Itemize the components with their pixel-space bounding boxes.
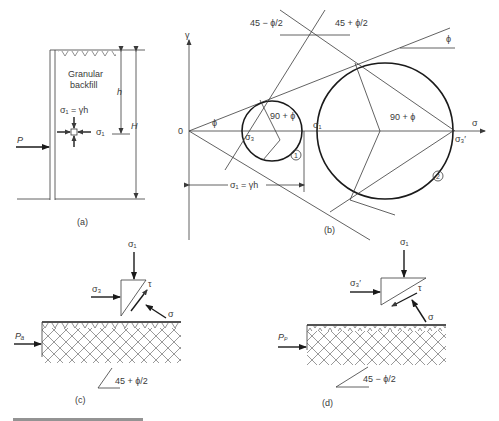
panel-a: Granular backfill σ₁ = γh σ₁ h H P (a): [16, 50, 145, 227]
panel-a-label: (a): [77, 217, 88, 227]
sigma-arrow: [412, 300, 426, 322]
panel-b-label: (b): [324, 225, 335, 235]
stress-wedge: [121, 280, 146, 316]
tau-arrow: [392, 293, 417, 306]
angle-90-large: 90 + ϕ: [390, 112, 415, 122]
sigma1-label: σ₁: [313, 120, 322, 130]
sigma-label: σ: [168, 309, 174, 319]
radius-line-2b: [350, 131, 380, 200]
panel-d-label: (d): [322, 398, 333, 408]
material-label: Granular: [68, 69, 103, 79]
circle-2-label: 2: [436, 173, 440, 180]
sigma1-label: σ₁: [400, 237, 409, 247]
radius-line-2: [355, 63, 380, 131]
soil-block: [307, 331, 446, 365]
failure-plane-line-3: [330, 131, 453, 212]
tau-label: τ: [418, 283, 422, 293]
panel-c-label: (c): [75, 395, 86, 405]
angle-45-plus: 45 + ϕ/2: [335, 18, 368, 28]
angle-45-minus: 45 − ϕ/2: [250, 18, 283, 28]
x-axis-label: σ: [472, 118, 478, 128]
angle-label: 45 − ϕ/2: [363, 374, 396, 384]
sigma3-prime-label: σ₃′: [455, 134, 466, 144]
force-label: Pₐ: [15, 331, 24, 341]
sigma-arrow: [146, 305, 166, 318]
force-label: P: [17, 135, 23, 145]
origin-label: 0: [178, 126, 183, 136]
figure: Granular backfill σ₁ = γh σ₁ h H P (a) γ…: [0, 0, 499, 421]
sigma3-label: σ₃′: [350, 278, 361, 288]
h-label: h: [117, 87, 122, 97]
vertical-stress-label: σ₁ = γh: [60, 105, 88, 115]
tangent-line: [350, 200, 395, 215]
panel-d: σ₁ σ₃′ τ σ Pₚ 45 − ϕ/2 (d): [278, 237, 446, 408]
circle-1-label: 1: [294, 152, 298, 159]
dim-sigma1-label: σ₁ = γh: [230, 180, 258, 190]
ground-hatch: [58, 51, 116, 56]
tau-arrow: [131, 290, 147, 311]
angle-phi-left: ϕ: [212, 118, 217, 128]
force-label: Pₚ: [278, 332, 288, 342]
sigma3-label: σ₃: [245, 132, 255, 142]
radius-line-1b: [263, 140, 280, 160]
sigma-label: σ: [428, 312, 434, 322]
envelope-lower: [189, 131, 370, 240]
y-axis-label: γ: [185, 30, 190, 40]
failure-plane-line-2: [280, 10, 455, 131]
angle-phi-right: ϕ: [446, 34, 451, 44]
sigma1-label: σ₁: [128, 239, 137, 249]
soil-block: [42, 328, 181, 363]
angle-label: 45 + ϕ/2: [115, 376, 148, 386]
sigma3-label: σ₃: [92, 284, 102, 294]
H-label: H: [131, 121, 138, 131]
horizontal-stress-label: σ₁: [96, 127, 105, 137]
ground-hatch: [307, 326, 446, 331]
panel-b: γ σ 0 45 − ϕ/2 45 + ϕ/2 ϕ ϕ 90 + ϕ 90 + …: [178, 10, 485, 240]
ground-hatch: [42, 323, 181, 328]
material-label-2: backfill: [70, 80, 98, 90]
soil-element: [71, 129, 77, 135]
panel-c: σ₁ σ₃ τ σ Pₐ 45 + ϕ/2 (c): [14, 239, 181, 405]
tau-label: τ: [148, 279, 152, 289]
angle-90-small: 90 + ϕ: [270, 111, 295, 121]
